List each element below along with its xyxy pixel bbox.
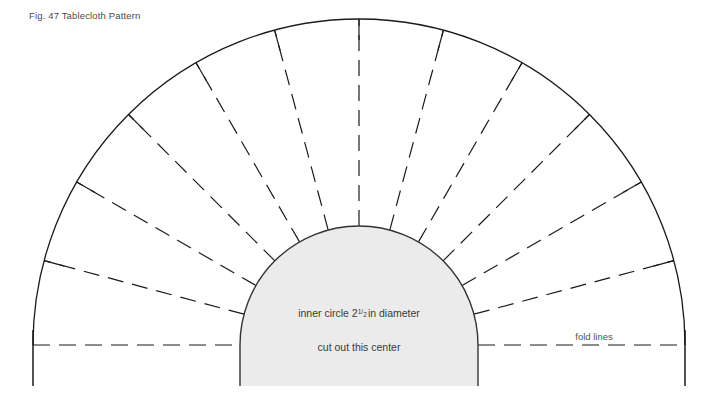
fold-line-radial-4 — [196, 63, 300, 242]
inner-circle-label-suffix: in diameter — [368, 307, 420, 319]
pattern-drawing: inner circle 21/2in diameter cut out thi… — [0, 0, 718, 407]
fold-line-radial-11 — [474, 261, 674, 315]
fold-line-radial-3 — [129, 115, 275, 261]
arc-tick-1 — [44, 261, 64, 267]
arc-tick-4 — [196, 63, 207, 81]
fold-line-radial-9 — [443, 115, 589, 261]
arc-tick-5 — [275, 30, 281, 50]
arc-tick-9 — [575, 115, 590, 130]
fold-line-radial-7 — [390, 30, 444, 230]
arc-tick-10 — [623, 182, 641, 193]
arc-tick-2 — [77, 182, 95, 193]
fold-line-radial-5 — [275, 30, 329, 230]
inner-circle-fraction-denominator: 2 — [363, 311, 367, 318]
arc-tick-8 — [511, 63, 522, 81]
arc-tick-3 — [129, 115, 144, 130]
arc-tick-11 — [654, 261, 674, 267]
arc-tick-7 — [438, 30, 444, 50]
fold-lines-label: fold lines — [575, 331, 613, 342]
cut-out-label: cut out this center — [318, 341, 401, 353]
inner-circle-label-prefix: inner circle 2 — [298, 307, 358, 319]
fold-line-radial-10 — [462, 182, 641, 286]
tablecloth-pattern-figure: Fig. 47 Tablecloth Pattern — [0, 0, 718, 407]
fold-line-radial-8 — [419, 63, 523, 242]
inner-circle-fill — [240, 226, 478, 386]
fold-line-radial-1 — [44, 261, 244, 315]
fold-line-radial-2 — [77, 182, 256, 286]
